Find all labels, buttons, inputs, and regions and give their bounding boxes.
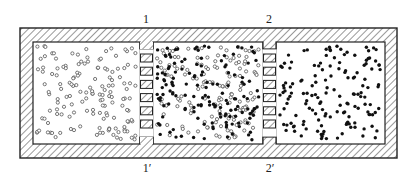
label-bottom-1: 1′ <box>143 162 152 174</box>
label-bottom-2: 2′ <box>266 162 275 174</box>
vessel-diagram <box>0 0 419 179</box>
label-top-2: 2 <box>266 13 272 25</box>
diagram-canvas: 1 2 1′ 2′ <box>0 0 419 179</box>
label-top-1: 1 <box>143 13 149 25</box>
